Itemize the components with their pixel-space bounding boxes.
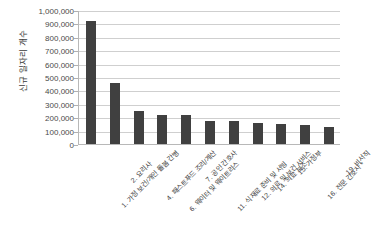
- bar: [181, 115, 191, 144]
- y-axis-tick-label: 400,000: [2, 87, 74, 96]
- bar: [229, 121, 239, 144]
- bar: [110, 83, 120, 144]
- bar: [86, 21, 96, 144]
- y-axis-tick-labels: 0100,000200,000300,000400,000500,000600,…: [0, 11, 74, 145]
- x-axis-tick-labels: 1. 가정 보건/개인 돌봄 간병2. 요리사4. 패스트푸드 조리/계산6. …: [0, 146, 360, 237]
- y-axis-tick-label: 1,000,000: [2, 7, 74, 16]
- y-axis-tick-label: 600,000: [2, 60, 74, 69]
- y-axis-tick-label: 800,000: [2, 33, 74, 42]
- bar-series: [79, 11, 340, 144]
- plot-area: [78, 11, 340, 145]
- y-axis-tick-label: 500,000: [2, 74, 74, 83]
- y-axis-tick-label: 700,000: [2, 47, 74, 56]
- bar: [157, 115, 167, 144]
- bar: [324, 127, 334, 144]
- y-axis-tick-label: 200,000: [2, 114, 74, 123]
- y-axis-tick-label: 300,000: [2, 100, 74, 109]
- bar: [134, 111, 144, 145]
- bar: [276, 124, 286, 144]
- bar: [300, 125, 310, 144]
- bar: [205, 121, 215, 144]
- y-axis-tick-label: 100,000: [2, 127, 74, 136]
- bar: [253, 123, 263, 144]
- y-axis-tick-label: 900,000: [2, 20, 74, 29]
